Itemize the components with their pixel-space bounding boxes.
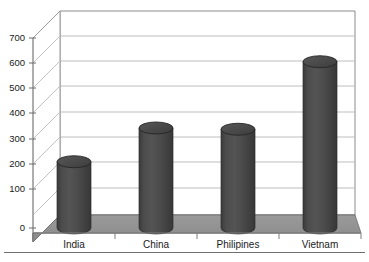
x-tick-label-india: India <box>36 239 112 250</box>
bar-india <box>57 156 91 234</box>
y-tick-label-700: 700 <box>0 33 25 43</box>
x-tick-label-china: China <box>118 239 194 250</box>
bar-body <box>57 162 91 234</box>
bar-body <box>139 128 173 234</box>
bar-china <box>139 122 173 234</box>
bar-top-cap <box>303 56 337 68</box>
chart-figure: 700 600 500 400 300 200 100 0 India Chin… <box>0 0 369 262</box>
x-tick-label-vietnam: Vietnam <box>282 239 358 250</box>
y-tick-label-500: 500 <box>0 83 25 93</box>
bar-body <box>303 62 337 234</box>
figure-bottom-rule <box>4 252 365 253</box>
y-tick-label-600: 600 <box>0 58 25 68</box>
plot-left-wall <box>29 11 60 242</box>
y-tick-label-400: 400 <box>0 108 25 118</box>
bar-vietnam <box>303 56 337 234</box>
y-tick-label-300: 300 <box>0 134 25 144</box>
bar-philipines <box>221 123 255 234</box>
bar-body <box>221 129 255 234</box>
chart-plot-area <box>0 0 369 262</box>
x-tick-label-philipines: Philipines <box>200 239 276 250</box>
bar-top-cap <box>57 156 91 168</box>
y-tick-label-100: 100 <box>0 184 25 194</box>
y-tick-label-200: 200 <box>0 159 25 169</box>
bar-top-cap <box>221 123 255 135</box>
bar-top-cap <box>139 122 173 134</box>
y-tick-label-0: 0 <box>0 223 25 233</box>
